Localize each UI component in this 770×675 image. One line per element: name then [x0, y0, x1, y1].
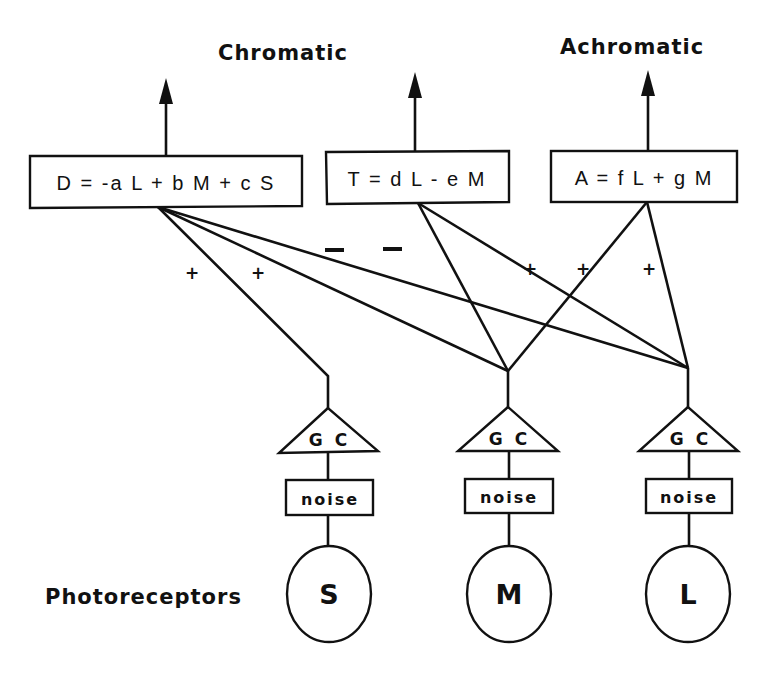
photoreceptors-label: Photoreceptors — [45, 585, 242, 609]
sign-a-l: + — [642, 259, 656, 279]
achromatic-label: Achromatic — [560, 35, 704, 59]
line-t-to-m — [418, 203, 508, 371]
sign-d-s: + — [185, 263, 199, 283]
line-t-to-l — [418, 203, 688, 368]
receptor-column-l: G C noise L — [639, 407, 738, 642]
sign-d-m: + — [251, 263, 265, 283]
receptor-column-m: G C noise M — [458, 407, 558, 642]
formula-t: T = d L - e M — [348, 168, 487, 190]
gain-control-label: G C — [489, 429, 527, 449]
connection-lines — [158, 202, 688, 408]
sign-t-m — [383, 247, 402, 251]
line-d-to-s — [158, 207, 328, 408]
noise-label: noise — [301, 490, 359, 509]
cone-m-label: M — [496, 579, 523, 610]
sign-d-l — [325, 248, 344, 252]
receptor-column-s: G C noise S — [279, 408, 378, 642]
formula-a: A = f L + g M — [575, 167, 714, 189]
chromatic-label: Chromatic — [218, 41, 348, 65]
arrow-up-icon-a — [641, 70, 655, 150]
formula-d: D = -a L + b M + c S — [57, 172, 276, 194]
arrow-up-icon-d — [159, 78, 173, 156]
line-a-to-m — [508, 202, 647, 371]
channel-box-a: A = f L + g M — [551, 151, 737, 202]
noise-label: noise — [480, 488, 538, 507]
channel-box-t: T = d L - e M — [326, 151, 509, 204]
cone-s-label: S — [319, 579, 338, 610]
gain-control-label: G C — [309, 430, 347, 450]
sign-t-l: + — [523, 259, 537, 279]
cone-l-label: L — [679, 579, 696, 610]
gain-control-label: G C — [670, 429, 708, 449]
line-d-to-m — [158, 207, 508, 371]
color-vision-model-diagram: Chromatic Achromatic D = -a L + b M + c … — [0, 0, 770, 675]
arrow-up-icon-t — [408, 72, 422, 151]
noise-label: noise — [660, 488, 718, 507]
sign-a-m: + — [576, 259, 590, 279]
line-a-to-l — [647, 202, 688, 368]
channel-box-d: D = -a L + b M + c S — [30, 156, 302, 208]
